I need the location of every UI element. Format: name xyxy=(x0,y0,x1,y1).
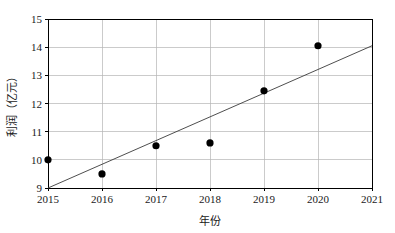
x-axis-title: 年份 xyxy=(199,214,221,228)
x-axis-tick-labels: 2015201620172018201920202021 xyxy=(37,193,383,205)
x-tick-label-2019: 2019 xyxy=(253,193,276,205)
data-point-2015 xyxy=(44,156,51,163)
x-tick-label-2018: 2018 xyxy=(199,193,222,205)
data-point-2016 xyxy=(98,170,105,177)
y-axis-title: 利润（亿元） xyxy=(5,71,19,137)
x-tick-label-2020: 2020 xyxy=(307,193,330,205)
y-axis-tick-labels: 9101112131415 xyxy=(31,13,43,194)
x-tick-label-2016: 2016 xyxy=(91,193,114,205)
scatter-chart: 9101112131415 20152016201720182019202020… xyxy=(0,0,395,233)
y-tick-label-12: 12 xyxy=(31,98,42,110)
data-point-2017 xyxy=(152,142,159,149)
y-tick-label-15: 15 xyxy=(31,13,43,25)
y-tick-label-14: 14 xyxy=(31,41,43,53)
x-tick-label-2015: 2015 xyxy=(37,193,60,205)
data-point-2020 xyxy=(314,42,321,49)
y-tick-label-11: 11 xyxy=(31,126,42,138)
x-tick-label-2017: 2017 xyxy=(145,193,168,205)
x-tick-label-2021: 2021 xyxy=(361,193,383,205)
y-tick-label-13: 13 xyxy=(31,69,43,81)
y-tick-label-10: 10 xyxy=(31,154,43,166)
data-point-2019 xyxy=(260,87,267,94)
chart-page: 9101112131415 20152016201720182019202020… xyxy=(0,0,395,233)
data-point-2018 xyxy=(206,139,213,146)
